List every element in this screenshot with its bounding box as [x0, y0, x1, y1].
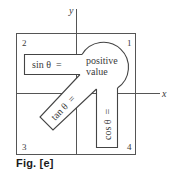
cos-label: cos θ = — [102, 108, 113, 140]
quadrant-3-label: 3 — [22, 142, 27, 152]
quadrant-1-label: 1 — [127, 38, 132, 48]
hub-text-line2: value — [86, 66, 108, 77]
x-axis-label: x — [161, 88, 167, 99]
trig-sign-diagram: y x 2 1 3 4 positive value sin θ = tan θ… — [0, 0, 173, 179]
quadrant-4-label: 4 — [127, 142, 132, 152]
figure-caption: Fig. [e] — [16, 157, 54, 169]
hub-text-line1: positive — [86, 55, 118, 66]
diagram-canvas: y x 2 1 3 4 positive value sin θ = tan θ… — [0, 0, 173, 179]
quadrant-2-label: 2 — [22, 38, 27, 48]
sin-label: sin θ = — [32, 59, 62, 70]
y-axis-label: y — [68, 5, 74, 16]
